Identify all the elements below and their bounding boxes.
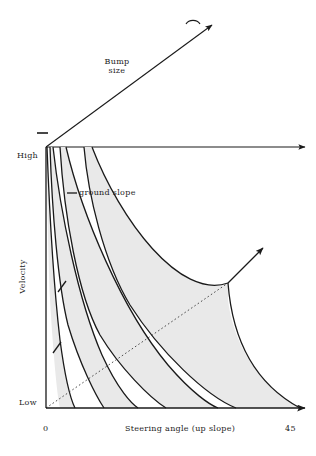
bump-size-label-line1: Bump <box>105 57 130 66</box>
x-axis-tick-min: 0 <box>43 425 48 434</box>
y-axis-tick-low: Low <box>19 399 37 408</box>
bump-size-axes <box>37 20 305 147</box>
rotation-arc-icon <box>186 20 200 24</box>
x-axis-title: Steering angle (up slope) <box>125 425 235 434</box>
shaded-bands <box>47 147 300 408</box>
y-axis-tick-high: High <box>17 152 38 161</box>
bump-size-label: Bump size <box>100 58 134 76</box>
ground-slope-label: ground slope <box>79 189 136 198</box>
x-axis-tick-max: 45 <box>285 425 296 434</box>
figure-canvas <box>0 0 316 456</box>
figure-root: Bump size High Low ground slope Velocity… <box>0 0 316 456</box>
ground-slope-arrow <box>228 248 263 283</box>
bump-size-label-line2: size <box>109 66 126 75</box>
y-axis-title: Velocity <box>19 246 28 306</box>
bump-size-axis-arrow <box>46 25 212 147</box>
